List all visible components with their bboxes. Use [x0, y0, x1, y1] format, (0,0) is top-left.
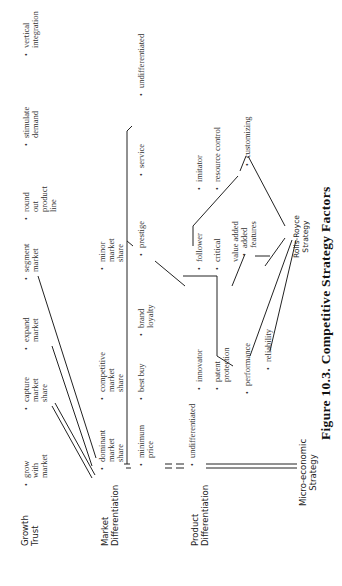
item-imitator: imitator [195, 127, 204, 190]
item-brand-loyalty: brand loyalty [137, 304, 155, 336]
item-minor-market-share: minor market share [98, 238, 125, 270]
item-minimum-price: minimum price [137, 425, 155, 466]
item-round-out-product-line: round out product line [22, 186, 58, 220]
figure-page: Growth Trust Market Differentiation Prod… [0, 0, 342, 586]
item-imitator-group: imitator resource control [186, 127, 231, 190]
item-grow-with-market: grow with market [22, 454, 49, 486]
item-vertical-integration: vertical integration [22, 11, 40, 56]
item-patent-protection: patent protection [213, 348, 231, 390]
item-follower: follower [195, 221, 204, 270]
item-segment-market: segment market [22, 244, 40, 280]
item-market-undifferentiated: undifferentiated [137, 34, 146, 96]
item-innovator-group: innovator patent protection [186, 348, 240, 390]
item-critical: critical [213, 221, 222, 270]
row-label-growth-trust: Growth Trust [20, 515, 40, 546]
row-label-micro-economic-strategy: Micro-economic Strategy [298, 439, 318, 506]
item-customizing: customizing [243, 116, 252, 166]
item-added-features: added features [240, 221, 258, 256]
figure-caption: Figure 10.3. Competitive Strategy Factor… [318, 187, 334, 441]
item-performance: performance [243, 343, 252, 394]
item-product-undifferentiated: undifferentiated [188, 404, 197, 466]
connector-lines [0, 0, 342, 586]
item-innovator: innovator [195, 348, 204, 390]
item-expand-market: expand market [22, 317, 40, 350]
item-resource-control: resource control [213, 127, 222, 190]
rolls-royce-strategy-node: Rolls-Royce Strategy [292, 215, 310, 258]
item-stimulate-demand: stimulate demand [22, 107, 40, 146]
item-best-buy: best buy [137, 363, 146, 400]
item-dominant-market-share: dominant market share [98, 430, 125, 470]
row-label-product-differentiation: Product Differentiation [190, 485, 210, 546]
item-reliability: reliability [264, 329, 273, 370]
row-label-market-differentiation: Market Differentiation [100, 485, 120, 546]
item-competitive-market-share: competitive market share [98, 352, 125, 400]
item-prestige: prestige [137, 221, 146, 256]
item-service: service [137, 144, 146, 176]
item-capture-market-share: capture market share [22, 377, 49, 410]
